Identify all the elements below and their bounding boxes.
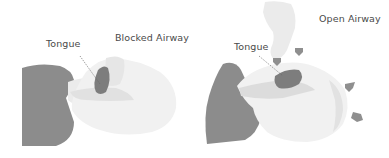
blocked-airway-illustration	[0, 0, 195, 158]
tongue-label: Tongue	[46, 38, 81, 49]
arrow-icon	[351, 112, 363, 122]
arrow-icon	[345, 82, 355, 92]
blocked-airway-title: Blocked Airway	[115, 32, 189, 43]
blocked-airway-diagram: Tongue Blocked Airway	[0, 0, 195, 158]
arrow-icon	[295, 48, 303, 56]
shoulder-shape	[22, 64, 74, 146]
open-airway-diagram: Tongue Open Airway	[195, 0, 389, 158]
tongue-label: Tongue	[234, 41, 269, 52]
open-airway-title: Open Airway	[319, 13, 381, 24]
